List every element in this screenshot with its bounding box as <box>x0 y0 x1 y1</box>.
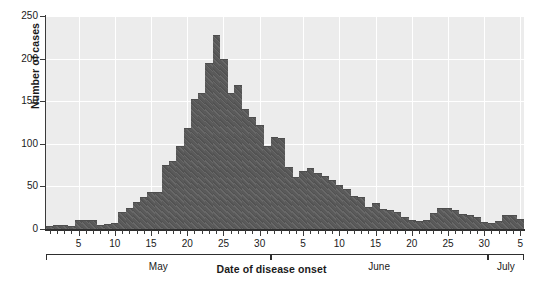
x-axis-tick <box>499 230 500 234</box>
y-axis-line <box>45 15 46 230</box>
x-axis-tick <box>455 230 456 234</box>
y-axis-tick <box>40 186 45 187</box>
y-axis-tick <box>40 229 45 230</box>
x-axis-title: Date of disease onset <box>0 263 543 275</box>
x-axis-tick <box>129 230 130 234</box>
x-axis-tick <box>180 230 181 234</box>
x-axis-tick <box>281 230 282 234</box>
x-axis-tick <box>310 230 311 234</box>
x-axis-tick-major <box>260 230 261 236</box>
x-axis-tick-major <box>303 230 304 236</box>
x-axis-tick <box>231 230 232 234</box>
x-axis-tick <box>86 230 87 234</box>
x-axis-tick-label: 5 <box>518 238 524 249</box>
x-axis-tick-major <box>339 230 340 236</box>
x-axis-tick-label: 20 <box>182 238 193 249</box>
x-axis-tick-label: 15 <box>370 238 381 249</box>
x-axis-tick-major <box>412 230 413 236</box>
y-axis-tick-label: 250 <box>4 11 38 21</box>
x-axis-tick <box>108 230 109 234</box>
x-axis-tick <box>470 230 471 234</box>
x-axis-tick <box>194 230 195 234</box>
x-axis-tick <box>354 230 355 234</box>
x-axis-tick-label: 30 <box>479 238 490 249</box>
x-axis-tick <box>57 230 58 234</box>
y-axis-tick-label: 50 <box>4 181 38 191</box>
x-axis-tick <box>245 230 246 234</box>
x-axis-tick <box>209 230 210 234</box>
x-axis-tick-label: 10 <box>109 238 120 249</box>
month-bracket <box>271 254 488 260</box>
x-axis-tick <box>318 230 319 234</box>
y-axis-tick <box>40 59 45 60</box>
x-axis-tick <box>419 230 420 234</box>
epidemic-curve-figure: Number of cases 050100150200250 51015202… <box>0 0 543 281</box>
x-axis-tick-label: 15 <box>145 238 156 249</box>
x-axis-tick-label: 25 <box>218 238 229 249</box>
x-axis-tick-major <box>115 230 116 236</box>
x-axis-tick <box>166 230 167 234</box>
x-axis-tick <box>158 230 159 234</box>
x-axis-tick <box>491 230 492 234</box>
x-axis-tick <box>332 230 333 234</box>
x-axis-tick <box>361 230 362 234</box>
x-axis-tick-major <box>448 230 449 236</box>
x-axis-tick-label: 5 <box>300 238 306 249</box>
x-axis-tick-major <box>79 230 80 236</box>
x-axis-tick <box>122 230 123 234</box>
x-axis-tick <box>513 230 514 234</box>
x-axis-line <box>45 229 525 231</box>
x-axis-tick <box>144 230 145 234</box>
x-axis-tick-major <box>187 230 188 236</box>
x-axis-tick <box>267 230 268 234</box>
x-axis-tick <box>325 230 326 234</box>
x-axis-tick <box>426 230 427 234</box>
x-axis-tick <box>93 230 94 234</box>
x-axis-tick <box>462 230 463 234</box>
plot-area <box>46 16 524 229</box>
x-axis-tick <box>441 230 442 234</box>
y-axis-tick <box>40 16 45 17</box>
x-axis-tick <box>368 230 369 234</box>
x-axis-tick <box>397 230 398 234</box>
y-axis-tick-label: 100 <box>4 139 38 149</box>
x-axis-tick-major <box>520 230 521 236</box>
x-axis-tick <box>71 230 72 234</box>
x-axis-tick-major <box>223 230 224 236</box>
y-axis-tick-labels: 050100150200250 <box>0 0 38 281</box>
x-axis-tick <box>252 230 253 234</box>
x-axis-tick <box>506 230 507 234</box>
bar-series <box>46 16 524 229</box>
x-axis-tick <box>137 230 138 234</box>
x-axis-tick <box>289 230 290 234</box>
x-axis-tick-label: 20 <box>406 238 417 249</box>
x-axis-tick <box>405 230 406 234</box>
x-axis-tick <box>50 230 51 234</box>
x-axis-tick <box>383 230 384 234</box>
x-axis-tick <box>238 230 239 234</box>
x-axis-tick <box>274 230 275 234</box>
x-axis-tick-major <box>484 230 485 236</box>
x-axis-tick <box>390 230 391 234</box>
x-axis-tick <box>296 230 297 234</box>
x-axis-tick-label: 25 <box>442 238 453 249</box>
x-axis-tick <box>347 230 348 234</box>
y-axis-tick-label: 150 <box>4 96 38 106</box>
x-axis-tick-major <box>151 230 152 236</box>
x-axis-tick <box>100 230 101 234</box>
bar <box>517 219 525 229</box>
y-axis-tick-label: 0 <box>4 224 38 234</box>
x-axis-tick <box>477 230 478 234</box>
x-axis-tick <box>202 230 203 234</box>
x-axis-tick-label: 30 <box>254 238 265 249</box>
x-axis-tick-label: 10 <box>334 238 345 249</box>
x-axis-tick <box>64 230 65 234</box>
x-axis-tick <box>433 230 434 234</box>
y-axis-tick <box>40 144 45 145</box>
x-axis-tick <box>173 230 174 234</box>
y-axis-tick <box>40 101 45 102</box>
y-axis-tick-label: 200 <box>4 54 38 64</box>
month-bracket <box>488 254 524 260</box>
x-axis-tick-label: 5 <box>76 238 82 249</box>
x-axis-tick-major <box>376 230 377 236</box>
